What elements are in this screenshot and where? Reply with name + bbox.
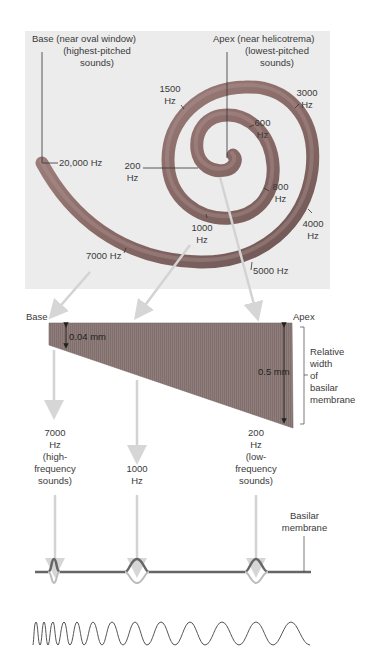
- membrane-response-line: [35, 536, 311, 583]
- apex-desc: (lowest-pitched sounds): [232, 45, 322, 69]
- basilar-membrane-label: Basilar membrane: [277, 510, 332, 534]
- response-label-1000: 1000 Hz: [117, 463, 157, 487]
- freq-200: 200Hz: [120, 160, 145, 184]
- freq-3000: 3000Hz: [292, 87, 322, 111]
- relative-width-label: Relative width of basilar membrane: [310, 346, 355, 406]
- position-arrows: [55, 177, 256, 312]
- membrane-base-label: Base: [26, 311, 48, 323]
- freq-800: 800Hz: [268, 181, 293, 205]
- sound-wave: [33, 622, 310, 645]
- base-width-label: 0.04 mm: [69, 331, 106, 343]
- response-label-200: 200 Hz (low- frequency sounds): [226, 427, 286, 487]
- apex-width-label: 0.5 mm: [258, 366, 290, 378]
- freq-5000: 5000 Hz: [253, 265, 288, 277]
- membrane-apex-label: Apex: [293, 311, 315, 323]
- freq-4000: 4000Hz: [298, 218, 328, 242]
- freq-7000: 7000 Hz: [86, 250, 121, 262]
- apex-label: Apex (near helicotrema): [213, 33, 314, 45]
- response-label-7000: 7000 Hz (high- frequency sounds): [25, 427, 85, 487]
- cochlea-spiral: [41, 85, 313, 262]
- base-label: Base (near oval window): [32, 33, 136, 45]
- freq-1500: 1500Hz: [155, 83, 185, 107]
- freq-20000: 20,000 Hz: [59, 157, 102, 169]
- freq-1000: 1000Hz: [187, 222, 217, 246]
- base-desc: (highest-pitched sounds): [52, 45, 142, 69]
- freq-600: 600Hz: [250, 117, 275, 141]
